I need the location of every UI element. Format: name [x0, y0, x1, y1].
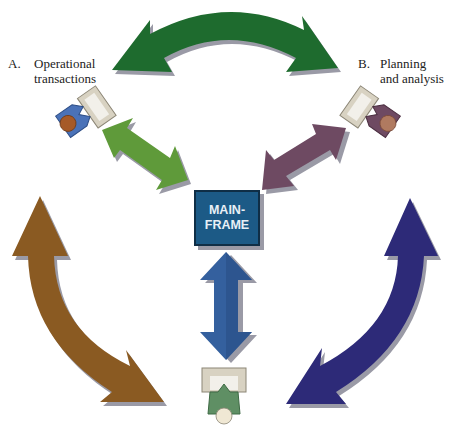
arrow-a-mainframe	[102, 118, 191, 194]
person-b-icon	[340, 86, 403, 145]
mainframe-line2: FRAME	[196, 218, 258, 233]
label-b-line1: Planning	[380, 56, 426, 71]
label-b-letter: B.	[358, 56, 380, 71]
person-c-icon	[202, 368, 246, 424]
label-a-letter: A.	[8, 56, 34, 71]
arrow-a-c	[12, 196, 167, 406]
arrow-mainframe-c	[200, 252, 257, 363]
arrow-b-c	[286, 198, 441, 408]
label-a-line1: Operational	[34, 56, 95, 71]
label-b-line2: and analysis	[358, 71, 444, 86]
mainframe-line1: MAIN-	[196, 203, 258, 218]
arrow-a-b	[112, 12, 341, 76]
label-planning-analysis: B.Planning and analysis	[358, 56, 444, 86]
arrow-b-mainframe	[262, 124, 350, 194]
label-operational-transactions: A.Operational transactions	[8, 56, 96, 86]
label-a-line2: transactions	[8, 71, 96, 86]
mainframe-box: MAIN- FRAME	[194, 190, 260, 246]
